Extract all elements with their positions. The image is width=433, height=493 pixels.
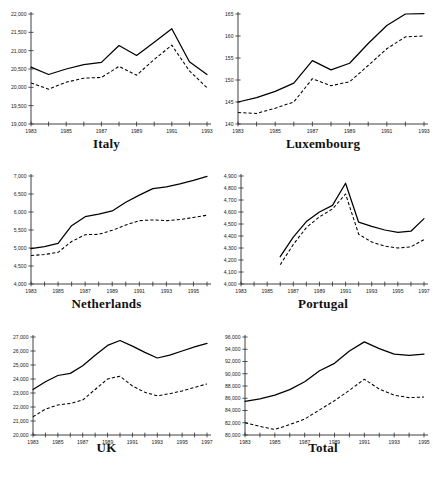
y-axis-tick-label: 19,500 <box>11 103 27 109</box>
y-axis-tick-label: 94,000 <box>225 346 241 352</box>
x-axis-tick-label: 1987 <box>288 288 299 294</box>
y-axis-tick-label: 4,600 <box>224 209 237 215</box>
x-axis-tick-label: 1993 <box>161 288 172 294</box>
y-axis-tick-label: 24,000 <box>13 376 29 382</box>
x-axis-tick-label: 1995 <box>392 288 403 294</box>
y-axis-tick-label: 82,000 <box>225 420 241 426</box>
y-axis-tick-label: 165 <box>225 11 234 17</box>
chart-panel-netherlands: 4,0004,5005,0005,5006,0006,5007,00019831… <box>0 165 213 325</box>
y-axis-tick-label: 4,000 <box>14 281 27 287</box>
y-axis-tick-label: 4,900 <box>224 173 237 179</box>
series-line-solid <box>238 14 424 102</box>
chart-title-netherlands: Netherlands <box>0 296 213 312</box>
x-axis-tick-label: 1993 <box>366 288 377 294</box>
y-axis-tick-label: 5,000 <box>14 245 27 251</box>
x-axis-tick-label: 1993 <box>201 128 212 134</box>
y-axis-tick-label: 145 <box>225 99 234 105</box>
x-axis-tick-label: 1987 <box>307 128 318 134</box>
y-axis-tick-label: 4,500 <box>224 221 237 227</box>
series-line-solid <box>245 342 424 401</box>
y-axis-tick-label: 84,000 <box>225 407 241 413</box>
y-axis-tick-label: 27,000 <box>13 334 29 340</box>
x-axis-tick-label: 1991 <box>166 128 177 134</box>
chart-title-italy: Italy <box>0 136 213 152</box>
series-line-dashed <box>245 379 424 429</box>
series-line-dashed <box>238 36 424 113</box>
y-axis-tick-label: 90,000 <box>225 371 241 377</box>
y-axis-tick-label: 86,000 <box>225 395 241 401</box>
y-axis-tick-label: 23,000 <box>13 390 29 396</box>
y-axis-tick-label: 22,000 <box>11 11 27 17</box>
y-axis-tick-label: 7,000 <box>14 173 27 179</box>
series-line-solid <box>33 341 207 390</box>
chart-panel-italy: 19,00019,50020,00020,50021,00021,50022,0… <box>0 0 213 165</box>
y-axis-tick-label: 4,300 <box>224 245 237 251</box>
x-axis-tick-label: 1985 <box>270 128 281 134</box>
y-axis-tick-label: 19,000 <box>11 121 27 127</box>
y-axis-tick-label: 155 <box>225 55 234 61</box>
chart-panel-portugal: 4,0004,1004,2004,3004,4004,5004,6004,700… <box>213 165 433 325</box>
y-axis-tick-label: 6,000 <box>14 209 27 215</box>
series-line-solid <box>280 183 424 256</box>
y-axis-tick-label: 150 <box>225 77 234 83</box>
x-axis-tick-label: 1983 <box>25 128 36 134</box>
x-axis-tick-label: 1985 <box>52 288 63 294</box>
x-axis-tick-label: 1989 <box>131 128 142 134</box>
y-axis-tick-label: 4,200 <box>224 257 237 263</box>
chart-title-uk: UK <box>0 440 213 456</box>
y-axis-tick-label: 4,000 <box>224 281 237 287</box>
x-axis-tick-label: 1995 <box>188 288 199 294</box>
x-axis-tick-label: 1991 <box>381 128 392 134</box>
x-axis-tick-label: 1985 <box>261 288 272 294</box>
y-axis-tick-label: 4,700 <box>224 197 237 203</box>
chart-panel-total: 80,00082,00084,00086,00088,00090,00092,0… <box>213 325 433 493</box>
x-axis-tick-label: 1989 <box>314 288 325 294</box>
y-axis-tick-label: 4,100 <box>224 269 237 275</box>
chart-panel-luxembourg: 1401451501551601651983198519871989199119… <box>213 0 433 165</box>
y-axis-tick-label: 4,800 <box>224 185 237 191</box>
y-axis-tick-label: 21,000 <box>11 48 27 54</box>
y-axis-tick-label: 92,000 <box>225 358 241 364</box>
series-line-solid <box>31 29 207 75</box>
y-axis-tick-label: 21,000 <box>13 418 29 424</box>
x-axis-tick-label: 1991 <box>340 288 351 294</box>
series-line-dashed <box>31 45 207 89</box>
x-axis-tick-label: 1993 <box>418 128 429 134</box>
x-axis-tick-label: 1987 <box>96 128 107 134</box>
chart-svg-uk: 20,00021,00022,00023,00024,00025,00026,0… <box>0 325 213 493</box>
chart-title-portugal: Portugal <box>213 296 433 312</box>
x-axis-tick-label: 1989 <box>107 288 118 294</box>
chart-panel-uk: 20,00021,00022,00023,00024,00025,00026,0… <box>0 325 213 493</box>
series-line-dashed <box>31 215 207 255</box>
y-axis-tick-label: 140 <box>225 121 234 127</box>
y-axis-tick-label: 96,000 <box>225 334 241 340</box>
y-axis-tick-label: 4,500 <box>14 263 27 269</box>
series-line-dashed <box>33 376 207 417</box>
y-axis-tick-label: 25,000 <box>13 362 29 368</box>
y-axis-tick-label: 22,000 <box>13 404 29 410</box>
y-axis-tick-label: 20,000 <box>13 432 29 438</box>
series-line-solid <box>31 176 207 248</box>
y-axis-tick-label: 20,000 <box>11 84 27 90</box>
y-axis-tick-label: 6,500 <box>14 191 27 197</box>
x-axis-tick-label: 1987 <box>79 288 90 294</box>
chart-svg-total: 80,00082,00084,00086,00088,00090,00092,0… <box>213 325 433 493</box>
y-axis-tick-label: 5,500 <box>14 227 27 233</box>
x-axis-tick-label: 1983 <box>232 128 243 134</box>
y-axis-tick-label: 80,000 <box>225 432 241 438</box>
y-axis-tick-label: 20,500 <box>11 66 27 72</box>
x-axis-tick-label: 1985 <box>61 128 72 134</box>
small-multiples-grid: 19,00019,50020,00020,50021,00021,50022,0… <box>0 0 433 493</box>
x-axis-tick-label: 1997 <box>418 288 429 294</box>
y-axis-tick-label: 21,500 <box>11 29 27 35</box>
chart-title-luxembourg: Luxembourg <box>213 136 433 152</box>
y-axis-tick-label: 4,400 <box>224 233 237 239</box>
y-axis-tick-label: 26,000 <box>13 348 29 354</box>
y-axis-tick-label: 88,000 <box>225 383 241 389</box>
x-axis-tick-label: 1983 <box>235 288 246 294</box>
chart-title-total: Total <box>213 440 433 456</box>
x-axis-tick-label: 1991 <box>134 288 145 294</box>
x-axis-tick-label: 1983 <box>25 288 36 294</box>
x-axis-tick-label: 1989 <box>344 128 355 134</box>
y-axis-tick-label: 160 <box>225 33 234 39</box>
